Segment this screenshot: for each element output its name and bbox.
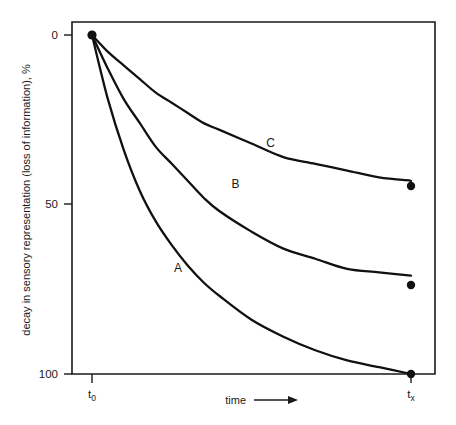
y-tick-label-0: 0: [52, 29, 58, 41]
x-axis-ticks: [92, 374, 411, 383]
curve-series-a: [92, 35, 411, 374]
x-tick-label-t0: t0: [88, 388, 96, 403]
chart-canvas: 0 50 100 decay in sensory representation…: [0, 0, 456, 425]
series-label-b: B: [232, 177, 240, 191]
y-axis-ticks: [64, 35, 72, 374]
x-axis-title: time: [225, 394, 246, 406]
curve-series-b: [92, 35, 411, 276]
x-tick-label-tx-subscript: x: [410, 393, 415, 403]
marker-end-a: [407, 370, 415, 378]
x-axis-arrow-icon: [254, 396, 298, 404]
y-axis-title: decay in sensory representation (loss of…: [20, 64, 32, 336]
decay-chart-figure: 0 50 100 decay in sensory representation…: [0, 0, 456, 425]
x-tick-label-tx: tx: [407, 388, 415, 403]
y-tick-label-50: 50: [45, 198, 58, 210]
marker-end-b: [407, 281, 415, 289]
x-tick-label-t0-subscript: 0: [91, 393, 96, 403]
y-tick-label-100: 100: [39, 368, 58, 380]
curve-series-c: [92, 35, 411, 181]
marker-end-c: [407, 182, 415, 190]
series-label-c: C: [266, 136, 275, 150]
series-label-a: A: [174, 261, 182, 275]
marker-origin: [87, 30, 96, 39]
